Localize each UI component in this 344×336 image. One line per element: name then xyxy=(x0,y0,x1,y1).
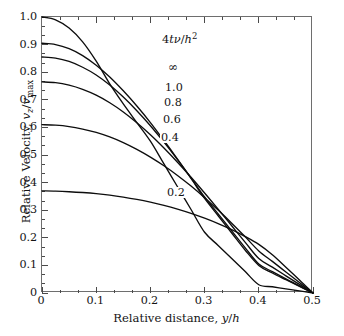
xtick-label: 0.3 xyxy=(189,295,219,306)
top-axis-ticks xyxy=(60,17,295,23)
xtick-label: 0.2 xyxy=(134,295,164,306)
ytick-label: 1.0 xyxy=(20,11,38,22)
y-axis-ticks xyxy=(42,17,48,293)
y-axis-title: Relative Velocity, vz/vmax xyxy=(19,27,34,277)
data-curves xyxy=(42,17,313,293)
xtick-label: 0.4 xyxy=(243,295,273,306)
curve-0-2 xyxy=(42,191,313,293)
curve-label-infinity: ∞ xyxy=(167,62,179,72)
xtick-label: 0 xyxy=(26,295,56,306)
xtick-label: 0.5 xyxy=(297,295,327,306)
curve-label-0-4: 0.4 xyxy=(160,132,180,143)
plot-area xyxy=(41,16,312,292)
curve-label-0-8: 0.8 xyxy=(163,97,183,108)
parameter-title-annotation: 4tν/h2 xyxy=(161,31,198,46)
x-axis-title: Relative distance, y/h xyxy=(41,311,312,325)
x-axis-ticks xyxy=(42,287,313,293)
plot-canvas xyxy=(42,17,313,293)
chart-figure: 1.0 0.9 0.8 0.7 0.6 0.5 0.4 0.3 0.2 0.1 … xyxy=(0,0,344,336)
xtick-label: 0.1 xyxy=(80,295,110,306)
curve-label-0-6: 0.6 xyxy=(162,114,182,125)
curve-inf xyxy=(42,17,313,293)
curve-label-1-0: 1.0 xyxy=(164,82,184,93)
curve-label-0-2: 0.2 xyxy=(166,187,186,198)
